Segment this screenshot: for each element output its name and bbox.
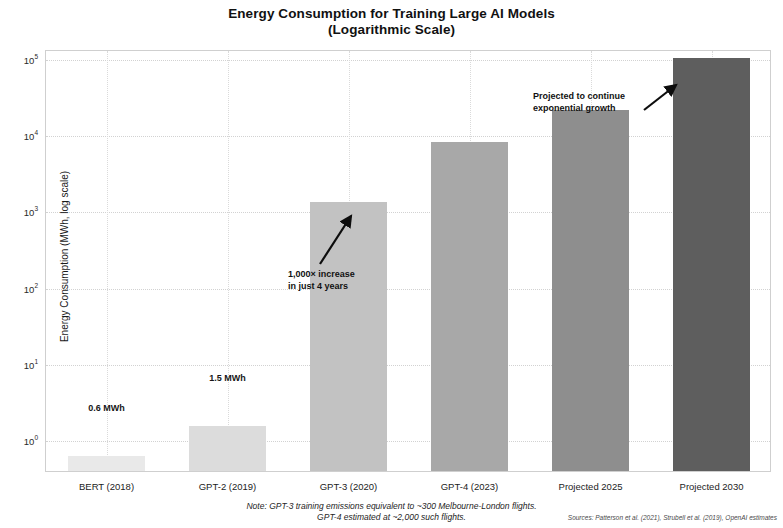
y-axis-tick-label: 102 [0, 283, 38, 294]
bar [189, 426, 265, 471]
x-axis-tick-label: GPT-2 (2019) [199, 481, 257, 492]
vertical-gridline [228, 51, 229, 471]
y-axis-label: Energy Consumption (MWh, log scale) [59, 57, 70, 457]
bar-value-label: 0.6 MWh [88, 403, 125, 413]
gridline [46, 60, 770, 61]
x-axis-tick-label: Projected 2025 [559, 481, 623, 492]
x-axis-tick-label: GPT-4 (2023) [441, 481, 499, 492]
y-axis-tick-label: 100 [0, 436, 38, 447]
projection-annotation-line2: exponential growth [533, 103, 625, 115]
bar [552, 110, 628, 471]
chart-title: Energy Consumption for Training Large AI… [0, 6, 783, 38]
x-axis-tick-label: GPT-3 (2020) [320, 481, 378, 492]
gridline [46, 289, 770, 290]
gridline [46, 441, 770, 442]
plot-area: 0.6 MWh1.5 MWh 105104103102101100 BERT (… [45, 50, 771, 472]
chart-sources: Sources: Patterson et al. (2021), Strube… [568, 514, 777, 521]
bar [673, 58, 749, 471]
x-axis-tick-label: Projected 2030 [680, 481, 744, 492]
growth-annotation-line2: in just 4 years [288, 281, 355, 293]
bar-value-label: 1.5 MWh [209, 373, 246, 383]
gridline [46, 136, 770, 137]
growth-annotation: 1,000× increase in just 4 years [288, 269, 355, 292]
bar [431, 142, 507, 471]
chart-note-line1: Note: GPT-3 training emissions equivalen… [0, 501, 783, 512]
y-axis-tick-label: 104 [0, 131, 38, 142]
projection-annotation: Projected to continue exponential growth [533, 91, 625, 114]
growth-annotation-line1: 1,000× increase [288, 269, 355, 281]
chart-title-subtitle: (Logarithmic Scale) [0, 22, 783, 38]
y-axis-tick-label: 105 [0, 55, 38, 66]
y-axis-tick-label: 101 [0, 359, 38, 370]
chart-title-main: Energy Consumption for Training Large AI… [228, 6, 555, 21]
gridline [46, 212, 770, 213]
x-axis-tick-label: BERT (2018) [79, 481, 134, 492]
gridline [46, 365, 770, 366]
bar [310, 202, 386, 471]
bar [68, 456, 144, 471]
y-axis-tick-label: 103 [0, 207, 38, 218]
chart-figure: Energy Consumption for Training Large AI… [0, 0, 783, 528]
projection-annotation-line1: Projected to continue [533, 91, 625, 103]
